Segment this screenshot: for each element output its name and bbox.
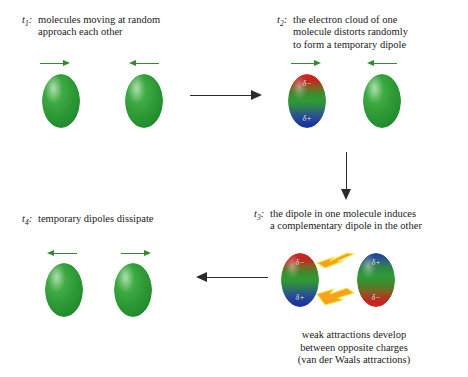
molecule-body <box>281 253 319 307</box>
caption-t2: t2:the electron cloud of onemolecule dis… <box>277 14 408 51</box>
note-line-3: (van der Waals attractions) <box>254 354 454 367</box>
arrow-head-icon <box>251 90 262 100</box>
arrow-head-icon <box>314 60 321 66</box>
step-label-t4: t4: <box>22 213 38 230</box>
arrow-shaft <box>291 63 314 65</box>
molecule-body <box>125 74 163 128</box>
note-line-2: between opposite charges <box>254 342 454 355</box>
velocity-arrow-t1-left <box>40 59 70 68</box>
caption-t1: t1:molecules moving at randomapproach ea… <box>22 14 160 39</box>
step-label-t1: t1: <box>22 14 38 31</box>
flow-arrow-t3-to-t4 <box>196 272 268 283</box>
molecule-body <box>42 74 80 128</box>
arrow-shaft <box>374 63 397 65</box>
arrow-head-icon <box>196 272 207 282</box>
molecule-body <box>363 74 401 128</box>
note-line-1: weak attractions develop <box>254 329 454 342</box>
molecule-t2-right <box>363 74 401 128</box>
arrow-head-icon <box>129 60 136 66</box>
arrow-head-icon <box>47 250 54 256</box>
flow-arrow-t1-to-t2 <box>190 90 262 101</box>
arrow-shaft <box>346 152 347 190</box>
molecule-t3-left-dipole: δ− δ+ <box>281 253 319 307</box>
arrow-shaft <box>54 253 77 255</box>
caption-t1-line-2: approach each other <box>38 26 160 38</box>
molecule-t2-left-dipole: δ− δ+ <box>288 74 326 128</box>
caption-t4: t4:temporary dipoles dissipate <box>22 213 153 230</box>
caption-t3-line-2: a complementary dipole in the other <box>270 220 422 232</box>
molecule-t4-left <box>45 263 83 317</box>
step-label-t2: t2: <box>277 14 293 31</box>
arrow-shaft <box>136 63 159 65</box>
molecule-body <box>357 253 395 307</box>
caption-t2-line-3: to form a temporary dipole <box>293 39 408 51</box>
molecule-body <box>288 74 326 128</box>
velocity-arrow-t4-left <box>47 249 77 258</box>
arrow-shaft <box>121 253 144 255</box>
caption-t1-line-1: molecules moving at random <box>38 14 160 26</box>
caption-t2-line-1: the electron cloud of one <box>293 14 408 26</box>
caption-t3-line-1: the dipole in one molecule induces <box>270 208 422 220</box>
molecule-t4-right <box>114 263 152 317</box>
step-label-t3: t3: <box>254 208 270 225</box>
attraction-bolt-lower-icon <box>316 287 360 307</box>
attraction-bolt-upper-icon <box>316 252 360 272</box>
molecule-body <box>114 263 152 317</box>
arrow-head-icon <box>144 250 151 256</box>
arrow-shaft <box>40 63 63 65</box>
velocity-arrow-t2-right <box>367 59 397 68</box>
arrow-head-icon <box>63 60 70 66</box>
caption-t2-line-2: molecule distorts randomly <box>293 26 408 38</box>
flow-arrow-t2-to-t3 <box>341 152 352 200</box>
caption-t3: t3:the dipole in one molecule inducesa c… <box>254 208 422 233</box>
caption-t4-line-1: temporary dipoles dissipate <box>38 213 153 225</box>
velocity-arrow-t1-right <box>129 59 159 68</box>
molecule-t3-right-induced-dipole: δ+ δ− <box>357 253 395 307</box>
arrow-head-icon <box>341 189 351 200</box>
molecule-body <box>45 263 83 317</box>
velocity-arrow-t2-left <box>291 59 321 68</box>
arrow-shaft <box>190 95 252 96</box>
arrow-shaft <box>206 277 268 278</box>
molecule-t1-left <box>42 74 80 128</box>
velocity-arrow-t4-right <box>121 249 151 258</box>
london-dispersion-forces-diagram: { "figure": { "title": "Formation of tem… <box>0 0 468 377</box>
molecule-t1-right <box>125 74 163 128</box>
caption-van-der-waals-note: weak attractions develop between opposit… <box>254 329 454 367</box>
arrow-head-icon <box>367 60 374 66</box>
